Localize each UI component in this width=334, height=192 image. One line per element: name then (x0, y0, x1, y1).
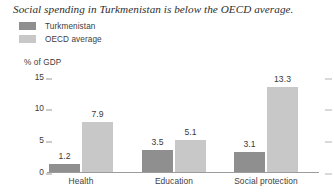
bar-value-label: 3.1 (230, 139, 270, 149)
axis-baseline (47, 172, 319, 173)
y-tick-label-5: 5 (22, 135, 44, 145)
y-tick-label-15: 15 (22, 72, 44, 82)
y-tick-label-10: 10 (22, 103, 44, 113)
bar-value-label: 5.1 (171, 127, 211, 137)
y-tick-mark-right-15 (325, 78, 332, 79)
y-tick-mark-right-10 (325, 110, 332, 111)
y-tick-mark-0 (46, 174, 52, 175)
bar (267, 87, 298, 172)
y-tick-mark-10 (46, 110, 52, 111)
bar (49, 164, 80, 172)
bar (82, 122, 113, 172)
bar (175, 140, 206, 172)
bar-value-label: 13.3 (263, 74, 303, 84)
y-tick-mark-right-0 (325, 174, 332, 175)
bar (142, 150, 173, 172)
y-tick-mark-5 (46, 142, 52, 143)
y-tick-mark-right-5 (325, 142, 332, 143)
category-label: Social protection (211, 176, 321, 186)
bar-value-label: 3.5 (138, 137, 178, 147)
bar-value-label: 7.9 (78, 109, 118, 119)
y-tick-mark-15 (46, 78, 52, 79)
bar (234, 152, 265, 172)
plot-area: 151050 1.27.93.55.13.113.3 HealthEducati… (0, 0, 334, 192)
bar-value-label: 1.2 (45, 151, 85, 161)
